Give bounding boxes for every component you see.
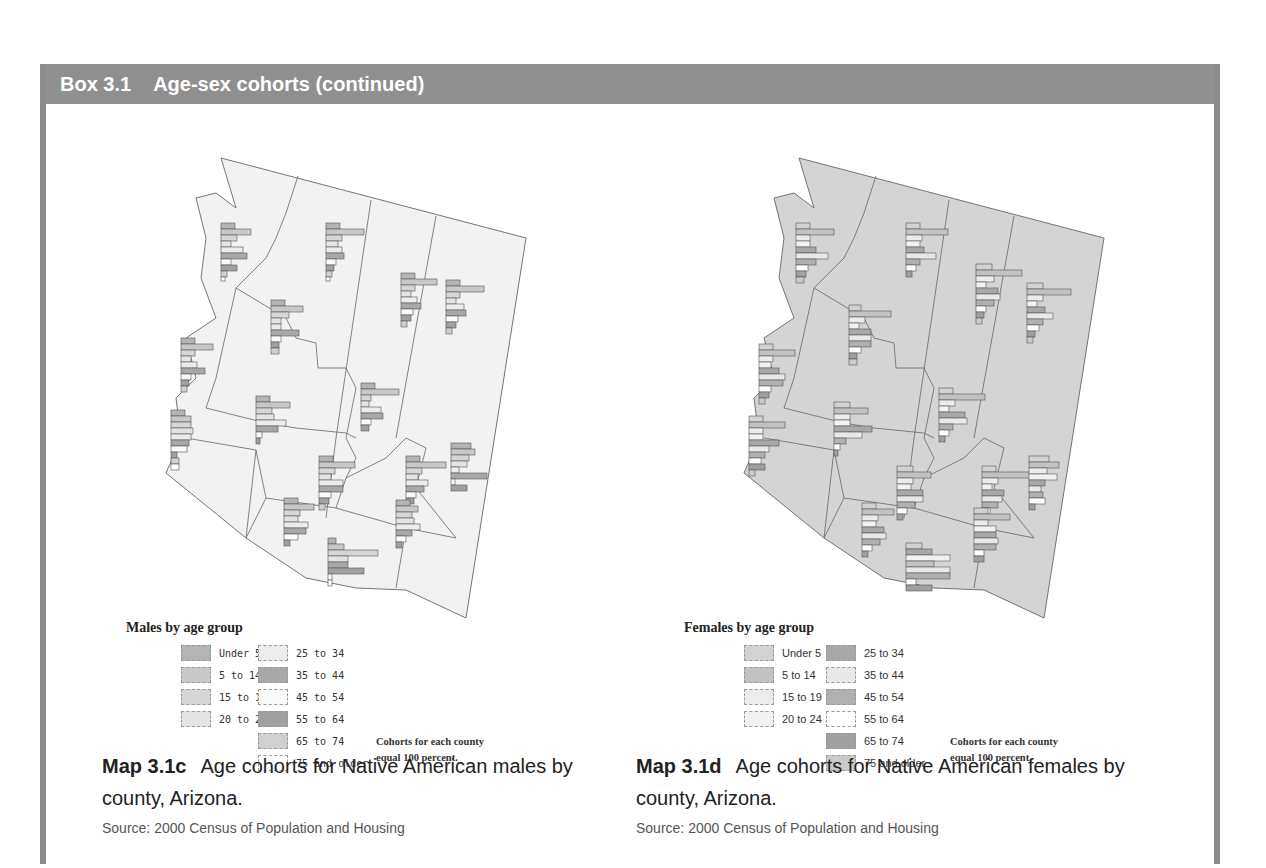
legend-title: Males by age group (126, 620, 243, 636)
map-panel-males: Males by age group Under 5 5 to 14 15 to… (46, 128, 606, 868)
legend-item-15-19: 15 to 19 (744, 688, 822, 706)
swatch (181, 689, 211, 705)
arizona-map-females (684, 138, 1164, 678)
map-source: Source: 2000 Census of Population and Ho… (636, 820, 939, 836)
legend-item-45-54: 45 to 54 (826, 688, 904, 706)
legend-item-65-74: 65 to 74 (826, 732, 904, 750)
swatch (826, 645, 856, 661)
legend-item-15-19: 15 to 19 (181, 688, 267, 706)
legend-item-35-44: 35 to 44 (258, 666, 344, 684)
swatch (744, 667, 774, 683)
legend-item-5-14: 5 to 14 (744, 666, 816, 684)
legend-males: Males by age group Under 5 5 to 14 15 to… (126, 620, 526, 760)
legend-item-55-64: 55 to 64 (258, 710, 344, 728)
box-title: Age-sex cohorts (continued) (153, 73, 424, 95)
legend-item-5-14: 5 to 14 (181, 666, 261, 684)
legend-item-45-54: 45 to 54 (258, 688, 344, 706)
legend-item-25-34: 25 to 34 (258, 644, 344, 662)
swatch (744, 711, 774, 727)
map-id: Map 3.1d (636, 755, 722, 777)
swatch (826, 667, 856, 683)
legend-item-20-24: 20 to 24 (744, 710, 822, 728)
legend-item-under-5: Under 5 (181, 644, 261, 662)
legend-item-20-24: 20 to 24 (181, 710, 267, 728)
map-source: Source: 2000 Census of Population and Ho… (102, 820, 405, 836)
box-number: Box 3.1 (60, 73, 131, 95)
swatch (744, 689, 774, 705)
legend-item-under-5: Under 5 (744, 644, 821, 662)
box-3-1: Box 3.1Age-sex cohorts (continued) (40, 64, 1220, 864)
swatch (826, 733, 856, 749)
map-panel-females: Females by age group Under 5 5 to 14 15 … (628, 128, 1188, 868)
map-id: Map 3.1c (102, 755, 186, 777)
legend-item-25-34: 25 to 34 (826, 644, 904, 662)
arizona-map-males (106, 138, 586, 678)
swatch (826, 711, 856, 727)
swatch (181, 667, 211, 683)
swatch (258, 645, 288, 661)
box-header: Box 3.1Age-sex cohorts (continued) (46, 64, 1214, 104)
swatch (826, 689, 856, 705)
swatch (258, 711, 288, 727)
legend-title: Females by age group (684, 620, 814, 636)
legend-item-55-64: 55 to 64 (826, 710, 904, 728)
legend-item-35-44: 35 to 44 (826, 666, 904, 684)
swatch (258, 689, 288, 705)
swatch (181, 711, 211, 727)
map-caption: Map 3.1cAge cohorts for Native American … (102, 750, 622, 814)
swatch (258, 733, 288, 749)
legend-item-65-74: 65 to 74 (258, 732, 344, 750)
swatch (181, 645, 211, 661)
map-caption: Map 3.1dAge cohorts for Native American … (636, 750, 1156, 814)
swatch (744, 645, 774, 661)
swatch (258, 667, 288, 683)
legend-females: Females by age group Under 5 5 to 14 15 … (684, 620, 1104, 760)
